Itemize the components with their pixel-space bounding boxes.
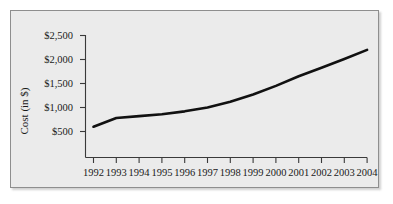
x-tick-label-2004: 2004: [357, 167, 379, 178]
x-tick-label-1996: 1996: [174, 167, 195, 178]
line-chart: Cost (in $) $2,500 $2,000 $1,500 $1,000 …: [11, 11, 380, 189]
chart-panel: Cost (in $) $2,500 $2,000 $1,500 $1,000 …: [10, 10, 379, 188]
x-tick-label-1995: 1995: [151, 167, 172, 178]
x-tick-label-2001: 2001: [288, 167, 309, 178]
y-tick-label-500: $500: [52, 126, 73, 137]
x-tick-label-1998: 1998: [220, 167, 241, 178]
y-tick-label-1500: $1,500: [44, 78, 73, 89]
x-tick-label-1992: 1992: [83, 167, 104, 178]
plot-area: Cost (in $) $2,500 $2,000 $1,500 $1,000 …: [11, 11, 380, 189]
x-tick-label-1994: 1994: [129, 167, 151, 178]
x-tick-label-1999: 1999: [243, 167, 264, 178]
x-tick-label-2003: 2003: [334, 167, 355, 178]
y-axis-label: Cost (in $): [18, 87, 31, 134]
y-tick-label-2500: $2,500: [44, 30, 73, 41]
x-tick-label-1993: 1993: [106, 167, 127, 178]
x-tick-label-2002: 2002: [311, 167, 332, 178]
y-tick-label-2000: $2,000: [44, 54, 73, 65]
figure-canvas: Cost (in $) $2,500 $2,000 $1,500 $1,000 …: [0, 0, 393, 204]
x-tick-label-1997: 1997: [197, 167, 218, 178]
y-tick-label-1000: $1,000: [44, 102, 73, 113]
cost-series-line: [94, 50, 368, 127]
x-tick-label-2000: 2000: [265, 167, 286, 178]
